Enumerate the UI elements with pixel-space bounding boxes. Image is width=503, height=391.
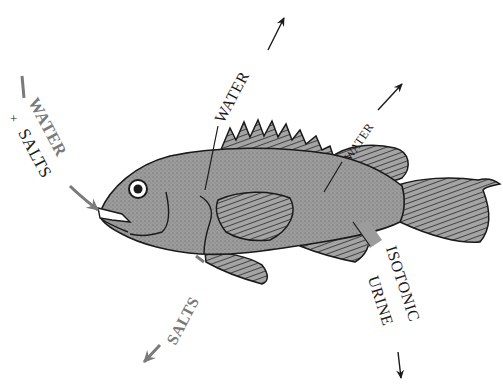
pelvic-fin: [205, 252, 267, 284]
intake-plus-label: +: [10, 112, 18, 125]
pectoral-fin: [216, 192, 293, 240]
caudal-fin: [398, 178, 500, 242]
osmoregulation-diagram: WATER + SALTS WATER WATER SALTS ISOTONIC…: [0, 0, 503, 391]
fish-eye: [129, 180, 147, 198]
fish-illustration: [0, 0, 503, 391]
